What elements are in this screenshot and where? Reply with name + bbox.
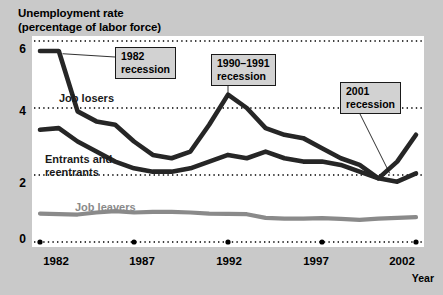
y-tick-6: 6 [4, 42, 26, 56]
series-label-job-leavers: Job leavers [75, 201, 136, 214]
callout-2001-line1: 2001 [346, 85, 395, 98]
series-label-job-losers: Job losers [59, 92, 114, 105]
callout-1982-line2: recession [121, 63, 170, 76]
series-label-entrants-line2: reentrants [45, 166, 112, 179]
x-tick-1997: 1997 [286, 255, 346, 267]
leader-line-3 [357, 108, 390, 173]
y-tick-4: 4 [4, 104, 26, 118]
callout-1982-line1: 1982 [121, 50, 170, 63]
x-axis-label: Year [412, 272, 434, 284]
callout-2001-recession: 2001 recession [340, 82, 401, 114]
leader-line-1 [63, 54, 115, 57]
chart-title-line1: Unemployment rate [18, 6, 161, 20]
x-tick-1982: 1982 [26, 255, 86, 267]
x-tick-1992: 1992 [199, 255, 259, 267]
x-tick-1987: 1987 [112, 255, 172, 267]
callout-1990-line2: recession [217, 70, 270, 83]
y-tick-0: 0 [4, 232, 26, 246]
callout-1990-1991-recession: 1990–1991 recession [211, 54, 276, 86]
chart-figure: Unemployment rate (percentage of labor f… [0, 0, 443, 295]
y-tick-2: 2 [4, 176, 26, 190]
callout-1982-recession: 1982 recession [115, 47, 176, 79]
x-tick-2002: 2002 [372, 255, 432, 267]
callout-1990-line1: 1990–1991 [217, 57, 270, 70]
chart-title-line2: (percentage of labor force) [18, 20, 161, 34]
series-label-entrants-line1: Entrants and [45, 153, 112, 166]
series-label-entrants: Entrants and reentrants [45, 153, 112, 178]
callout-2001-line2: recession [346, 98, 395, 111]
chart-title: Unemployment rate (percentage of labor f… [18, 6, 161, 34]
